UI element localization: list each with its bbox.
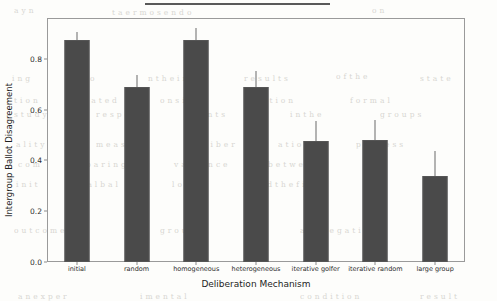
ghost-text: r e s u l t: [420, 292, 457, 301]
ghost-text: t a e r m o s e n d o: [112, 8, 192, 17]
x-axis-tick-label: random: [124, 265, 149, 273]
x-axis-title: Deliberation Mechanism: [47, 279, 465, 289]
y-axis-tick-label: 0.6: [30, 105, 42, 114]
ghost-text: c o n d i t i o n: [300, 292, 360, 301]
y-axis-tick-label: 0.4: [30, 156, 42, 165]
error-bar: [196, 28, 197, 39]
ghost-text: a y n: [14, 6, 34, 15]
ghost-text: a l i t y: [16, 140, 45, 149]
ghost-text: t i o n: [14, 96, 38, 105]
bar-group: iterative golfer: [286, 18, 346, 262]
bar[interactable]: [303, 141, 328, 262]
ghost-text: i n i t: [16, 180, 38, 189]
x-axis-tick-label: large group: [416, 265, 453, 273]
error-bar: [255, 71, 256, 86]
bar-group: homogeneous: [166, 18, 226, 262]
scan-artifact-rule: [145, 3, 330, 5]
x-axis-tick-label: homogeneous: [173, 265, 219, 273]
error-bar: [435, 151, 436, 175]
bar-group: heterogeneous: [226, 18, 286, 262]
y-axis-tick-label: 0.0: [30, 258, 42, 267]
plot-area: 0.00.20.40.60.8 initialrandomhomogeneous…: [47, 18, 465, 262]
ghost-text: a n e x p e r: [18, 292, 67, 301]
x-axis-tick-label: iterative random: [348, 265, 403, 273]
x-axis-tick-label: iterative golfer: [292, 265, 340, 273]
ghost-text: o n: [372, 6, 385, 15]
bar[interactable]: [423, 176, 448, 262]
y-axis-tick-label: 0.2: [30, 207, 42, 216]
bar[interactable]: [363, 140, 388, 262]
error-bar: [76, 32, 77, 40]
bar[interactable]: [184, 40, 209, 262]
bar-group: random: [107, 18, 167, 262]
bar[interactable]: [243, 87, 268, 262]
bar-group: iterative random: [346, 18, 406, 262]
y-axis-title: Intergroup Ballot Disagreement: [4, 83, 14, 217]
error-bar: [375, 120, 376, 140]
error-bar: [136, 75, 137, 87]
x-axis-tick-label: initial: [68, 265, 86, 273]
x-axis-tick-label: heterogeneous: [232, 265, 281, 273]
bar-group: large group: [405, 18, 465, 262]
y-axis-tick-label: 0.8: [30, 54, 42, 63]
error-bar: [315, 121, 316, 141]
bar[interactable]: [64, 40, 89, 262]
bar[interactable]: [124, 87, 149, 262]
bar-group: initial: [47, 18, 107, 262]
ghost-text: i n g: [12, 74, 30, 83]
ghost-text: i m e n t a l: [140, 292, 187, 301]
